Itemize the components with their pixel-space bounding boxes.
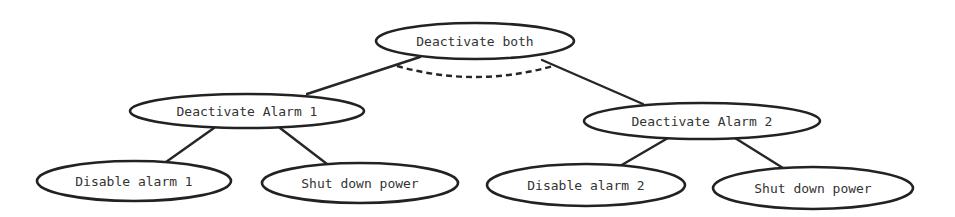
node-shut-down-power-2: Shut down power [713,167,913,209]
edge-alarm2-to-disable2 [620,138,668,166]
edge-alarm1-to-power1 [280,128,327,164]
node-root-label: Deactivate both [416,34,533,49]
node-root: Deactivate both [376,23,574,59]
node-disable-alarm-2: Disable alarm 2 [487,164,685,206]
node-shut-down-power-1-label: Shut down power [301,176,419,191]
node-shut-down-power-1: Shut down power [262,163,458,203]
edge-root-to-alarm2 [542,60,643,104]
node-deactivate-alarm-2: Deactivate Alarm 2 [584,103,820,139]
edge-alarm1-to-disable1 [166,128,214,162]
nodes: Deactivate both Deactivate Alarm 1 Deact… [37,23,913,209]
edge-root-to-alarm1 [307,57,420,94]
node-deactivate-alarm-2-label: Deactivate Alarm 2 [632,114,773,129]
node-deactivate-alarm-1-label: Deactivate Alarm 1 [177,104,318,119]
node-disable-alarm-1: Disable alarm 1 [37,161,231,201]
node-deactivate-alarm-1: Deactivate Alarm 1 [130,94,364,128]
node-disable-alarm-2-label: Disable alarm 2 [527,178,644,193]
node-shut-down-power-2-label: Shut down power [754,181,872,196]
attack-tree-diagram: Deactivate both Deactivate Alarm 1 Deact… [0,0,955,217]
and-connector-arc [397,66,553,77]
edge-alarm2-to-power2 [735,138,783,168]
node-disable-alarm-1-label: Disable alarm 1 [75,174,192,189]
